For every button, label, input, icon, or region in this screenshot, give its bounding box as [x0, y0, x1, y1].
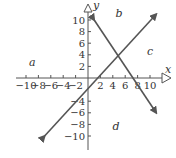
y-axis-arrow-icon	[84, 4, 92, 12]
x-tick-label: 10	[144, 80, 157, 91]
x-tick-label: 2	[97, 80, 103, 91]
x-axis-label: x	[165, 63, 172, 76]
lines	[45, 14, 157, 136]
y-tick-label: 4	[79, 49, 85, 60]
x-tick-label: 4	[110, 80, 116, 91]
x-tick-label: −2	[68, 80, 83, 91]
x-tick-label: 6	[122, 80, 128, 91]
region-label-a: a	[29, 56, 36, 69]
line-series	[45, 14, 157, 136]
y-tick-label: −8	[70, 119, 85, 130]
annotations: abcd	[29, 7, 153, 133]
region-label-d: d	[112, 120, 119, 133]
y-axis-label: y	[92, 0, 100, 12]
line-series	[94, 20, 156, 113]
coordinate-plane: xy −10−8−6−4−2246810108642−4−6−8−10 abcd	[0, 0, 176, 158]
y-tick-label: −10	[64, 131, 85, 142]
region-label-c: c	[147, 45, 153, 58]
y-tick-label: 2	[79, 61, 85, 72]
y-tick-label: 8	[79, 26, 85, 37]
y-tick-label: 6	[79, 38, 85, 49]
region-label-b: b	[115, 7, 122, 20]
y-tick-label: −6	[70, 107, 85, 118]
y-tick-label: 10	[72, 15, 85, 26]
